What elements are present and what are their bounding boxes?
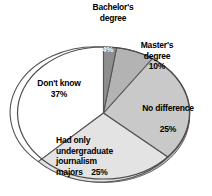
slice-label-bachelors: Bachelor's degree <box>78 2 148 23</box>
pie-chart: Bachelor's degree 4% Master's degree 10%… <box>0 0 212 196</box>
slice-label-no-difference: No difference 25% <box>133 103 203 135</box>
slice-label-dont-know: Don't know 37% <box>26 78 92 99</box>
slice-label-masters: Master's degree 10% <box>126 40 188 72</box>
slice-label-had-only-undergraduate: Had only undergraduate journalism majors… <box>56 135 148 177</box>
slice-value-bachelors: 4% <box>102 45 118 54</box>
